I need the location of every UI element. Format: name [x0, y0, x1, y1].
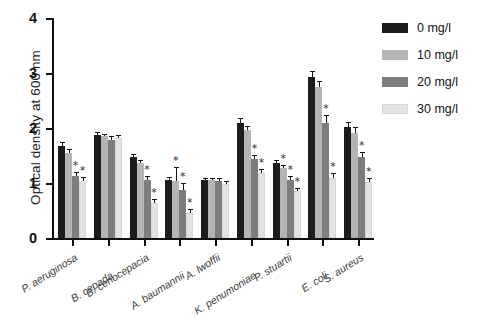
significance-marker: * — [252, 143, 258, 154]
bar — [294, 191, 301, 238]
x-axis-label: P. stuartii — [41, 251, 294, 318]
error-bar-cap — [259, 169, 264, 170]
bar-group — [201, 18, 229, 238]
error-bar — [147, 177, 148, 180]
error-bar — [369, 179, 370, 182]
bar — [215, 181, 222, 238]
error-bar — [254, 156, 255, 159]
x-axis-line — [52, 238, 374, 240]
legend-item: 30 mg/l — [382, 97, 477, 121]
bar — [79, 181, 86, 238]
significance-marker: * — [73, 160, 79, 171]
significance-marker: * — [151, 187, 157, 198]
error-bar — [319, 82, 320, 87]
error-bar-cap — [238, 118, 243, 119]
error-bar — [104, 135, 105, 137]
significance-marker: * — [294, 176, 300, 187]
error-bar — [219, 179, 220, 181]
error-bar-cap — [274, 160, 279, 161]
significance-marker: * — [323, 103, 329, 114]
error-bar — [118, 136, 119, 138]
bar — [273, 163, 280, 238]
error-bar — [362, 153, 363, 156]
bar-group: ** — [344, 18, 372, 238]
error-bar-cap — [167, 177, 172, 178]
error-bar-cap — [281, 165, 286, 166]
error-bar-cap — [174, 167, 179, 168]
error-bar-cap — [102, 134, 107, 135]
x-axis-label: S. aureus — [52, 251, 366, 318]
error-bar — [276, 161, 277, 163]
x-axis-label: A. lwoffii — [30, 251, 222, 318]
y-tick-label: 0 — [29, 231, 37, 246]
plot-area: 01234 **************** — [52, 18, 374, 240]
bar — [237, 123, 244, 239]
legend-swatch — [382, 23, 408, 33]
error-bar — [205, 179, 206, 181]
legend-label: 20 mg/l — [417, 75, 458, 89]
error-bar-cap — [310, 71, 315, 72]
significance-marker: * — [280, 153, 286, 164]
error-bar — [133, 155, 134, 157]
error-bar — [176, 168, 177, 181]
bar — [94, 135, 101, 238]
bar-group: ** — [58, 18, 86, 238]
error-bar-cap — [360, 152, 365, 153]
error-bar — [247, 127, 248, 130]
error-bar-cap — [188, 209, 193, 210]
x-tick — [358, 240, 360, 246]
error-bar-cap — [252, 155, 257, 156]
bar — [365, 182, 372, 238]
legend-swatch — [382, 50, 408, 60]
x-axis-label: A. baumannii — [25, 269, 187, 318]
bar — [72, 176, 79, 238]
error-bar — [348, 123, 349, 127]
bar — [179, 190, 186, 238]
significance-marker: * — [359, 140, 365, 151]
bar — [222, 184, 229, 238]
error-bar-cap — [109, 136, 114, 137]
error-bar-cap — [145, 176, 150, 177]
x-tick — [144, 240, 146, 246]
x-axis-label: B. cenocepacia — [19, 251, 150, 318]
error-bar — [76, 173, 77, 177]
error-bar-cap — [81, 177, 86, 178]
bar — [244, 130, 251, 238]
bar — [344, 127, 351, 238]
error-bar-cap — [224, 181, 229, 182]
y-tick: 3 — [46, 73, 52, 75]
bar — [329, 178, 336, 238]
error-bar — [62, 143, 63, 146]
error-bar — [83, 178, 84, 181]
bar-group: ** — [237, 18, 265, 238]
bar — [115, 138, 122, 238]
error-bar-cap — [317, 81, 322, 82]
significance-marker: * — [180, 171, 186, 182]
y-axis-line — [52, 18, 54, 240]
bar — [280, 168, 287, 238]
error-bar-cap — [74, 172, 79, 173]
bar-chart-figure: Optical density at 600 nm 01234 ********… — [0, 0, 477, 318]
bar — [65, 153, 72, 238]
bar — [258, 173, 265, 238]
bar — [144, 180, 151, 238]
bar — [358, 157, 365, 238]
bar — [287, 180, 294, 238]
y-tick: 4 — [46, 18, 52, 20]
x-tick — [322, 240, 324, 246]
bar — [151, 203, 158, 238]
legend-item: 0 mg/l — [382, 16, 477, 40]
y-tick: 2 — [46, 128, 52, 130]
error-bar — [312, 72, 313, 77]
error-bar-cap — [346, 122, 351, 123]
error-bar — [190, 210, 191, 213]
bar — [137, 163, 144, 238]
x-axis-label: K. penumoniae — [36, 269, 259, 318]
error-bar-cap — [131, 154, 136, 155]
significance-marker: * — [80, 165, 86, 176]
significance-marker: * — [330, 161, 336, 172]
legend-label: 0 mg/l — [417, 21, 451, 35]
significance-marker: * — [366, 166, 372, 177]
error-bar-cap — [210, 178, 215, 179]
bar — [108, 140, 115, 238]
